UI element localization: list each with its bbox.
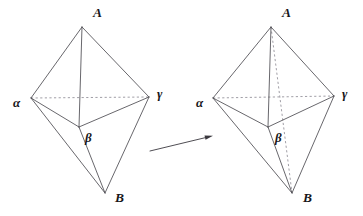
left-label-beta: β [84,130,92,145]
right-label-alpha: α [196,95,204,110]
left-hidden-edge-alpha-gamma [31,97,149,98]
right-edge-alpha-beta [213,98,268,127]
left-edge-A-beta [79,27,82,127]
right-label-gamma: γ [342,86,348,101]
right-label-B: B [302,190,312,205]
bipyramid-transformation-figure: A α γ β B A [0,0,363,216]
diagram-canvas: A α γ β B A [0,0,363,216]
transformation-arrow-head [205,135,214,139]
left-label-gamma: γ [157,86,163,101]
left-bipyramid-group: A α γ β B [13,5,163,205]
right-hidden-edge-A-B [271,27,292,193]
right-edge-gamma-B [292,96,334,193]
right-edge-A-beta [268,27,271,127]
left-edge-A-gamma [82,27,149,97]
left-edge-gamma-B [105,97,149,193]
right-edge-A-gamma [271,27,334,96]
right-bipyramid-group: A α γ β B [196,5,348,205]
right-label-A: A [281,5,291,20]
left-edge-alpha-beta [31,98,79,127]
left-label-B: B [114,190,124,205]
right-edge-gamma-beta [268,96,334,127]
right-edge-alpha-B [213,98,292,193]
left-edge-gamma-beta [79,97,149,127]
left-edge-beta-B [79,127,105,193]
right-label-beta: β [274,130,282,145]
transformation-arrow-shaft [150,137,208,151]
transformation-arrow-group [150,135,213,151]
left-edge-alpha-B [31,98,105,193]
left-label-alpha: α [13,95,21,110]
right-edge-A-alpha [213,27,271,98]
left-label-A: A [92,5,102,20]
left-edge-A-alpha [31,27,82,98]
right-hidden-edge-alpha-gamma [213,96,334,98]
